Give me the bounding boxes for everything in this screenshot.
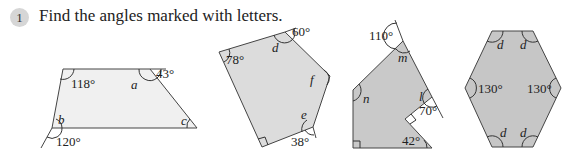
trap-angle-b: b — [58, 112, 65, 127]
figure-hexagon: d d 130° 130° d d — [465, 31, 561, 147]
hex-angle-130-right: 130° — [527, 81, 552, 96]
figures-canvas: 118° a 43° b 120° c 78° d 60° f e 38° — [0, 0, 572, 149]
figure-trapezium: 118° a 43° b 120° c — [41, 66, 197, 149]
trap-angle-120: 120° — [56, 134, 81, 149]
hex-angle-d-br: d — [520, 125, 527, 140]
poly-angle-70: 70° — [419, 103, 437, 118]
pent-angle-d: d — [272, 40, 279, 55]
poly-angle-l: l — [419, 89, 423, 104]
hex-angle-d-tr: d — [520, 37, 527, 52]
hex-angle-d-tl: d — [497, 37, 504, 52]
pent-angle-e: e — [301, 107, 307, 122]
figure-pentagon: 78° d 60° f e 38° — [219, 24, 330, 149]
pent-angle-60: 60° — [292, 24, 310, 39]
trap-angle-a: a — [131, 77, 138, 92]
trap-angle-43: 43° — [156, 66, 174, 81]
trap-angle-c: c — [181, 113, 187, 128]
hex-angle-d-bl: d — [500, 125, 507, 140]
poly-angle-m: m — [398, 50, 407, 65]
pent-angle-78: 78° — [226, 52, 244, 67]
poly-angle-42: 42° — [402, 133, 420, 148]
poly-angle-n: n — [363, 91, 370, 106]
figure-notched-polygon: 110° m n l 70° 42° — [353, 20, 443, 148]
hex-angle-130-left: 130° — [478, 81, 503, 96]
poly-angle-110: 110° — [369, 28, 393, 43]
pent-angle-38: 38° — [291, 134, 309, 149]
trap-angle-118: 118° — [71, 76, 95, 91]
